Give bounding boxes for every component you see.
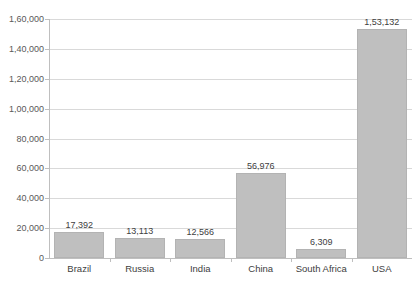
- y-axis-tick-mark: [45, 109, 49, 110]
- bar-russia[interactable]: [115, 238, 165, 258]
- y-axis-tick-label: 1,40,000: [9, 44, 44, 53]
- x-axis-category-labels: BrazilRussiaIndiaChinaSouth AfricaUSA: [49, 263, 412, 279]
- x-axis-label-india: India: [170, 263, 231, 275]
- x-axis-tick-mark: [110, 258, 111, 262]
- x-axis-tick-mark: [231, 258, 232, 262]
- y-axis-tick-label: 1,20,000: [9, 74, 44, 83]
- y-axis-tick-label: 40,000: [16, 194, 44, 203]
- x-axis-label-south-africa: South Africa: [291, 263, 352, 275]
- bar-slot: 12,566: [170, 19, 231, 258]
- bar-value-label: 56,976: [231, 161, 292, 171]
- bar-india[interactable]: [175, 239, 225, 258]
- y-axis-tick-label: 1,60,000: [9, 15, 44, 24]
- bar-south-africa[interactable]: [296, 249, 346, 258]
- y-axis-tick-mark: [45, 258, 49, 259]
- y-axis-tick-label: 80,000: [16, 134, 44, 143]
- y-axis-tick-labels: 020,00040,00060,00080,0001,00,0001,20,00…: [0, 0, 44, 285]
- bars-layer: 17,39213,11312,56656,9766,3091,53,132: [49, 19, 412, 258]
- y-axis-tick-mark: [45, 19, 49, 20]
- x-axis-tick-mark: [352, 258, 353, 262]
- y-axis-tick-label: 1,00,000: [9, 104, 44, 113]
- y-axis-tick-label: 20,000: [16, 224, 44, 233]
- bar-value-label: 17,392: [49, 220, 110, 230]
- y-axis-tick-mark: [45, 49, 49, 50]
- y-axis-tick-mark: [45, 168, 49, 169]
- y-axis-tick-mark: [45, 198, 49, 199]
- y-axis-tick-mark: [45, 228, 49, 229]
- bar-usa[interactable]: [357, 29, 407, 258]
- x-axis-tick-mark: [291, 258, 292, 262]
- bar-slot: 6,309: [291, 19, 352, 258]
- bar-slot: 56,976: [231, 19, 292, 258]
- bar-value-label: 12,566: [170, 227, 231, 237]
- x-axis-tick-mark: [170, 258, 171, 262]
- x-axis-label-china: China: [231, 263, 292, 275]
- bar-value-label: 13,113: [110, 226, 171, 236]
- bar-slot: 13,113: [110, 19, 171, 258]
- bar-brazil[interactable]: [54, 232, 104, 258]
- y-axis-tick-label: 0: [39, 254, 44, 263]
- x-axis-label-usa: USA: [352, 263, 413, 275]
- bar-slot: 17,392: [49, 19, 110, 258]
- y-axis-tick-mark: [45, 139, 49, 140]
- bar-value-label: 1,53,132: [352, 17, 413, 27]
- bar-china[interactable]: [236, 173, 286, 258]
- bar-chart: 020,00040,00060,00080,0001,00,0001,20,00…: [0, 0, 419, 285]
- bar-value-label: 6,309: [291, 237, 352, 247]
- x-axis-label-russia: Russia: [110, 263, 171, 275]
- y-axis-tick-label: 60,000: [16, 164, 44, 173]
- y-axis-tick-mark: [45, 79, 49, 80]
- bar-slot: 1,53,132: [352, 19, 413, 258]
- x-axis-label-brazil: Brazil: [49, 263, 110, 275]
